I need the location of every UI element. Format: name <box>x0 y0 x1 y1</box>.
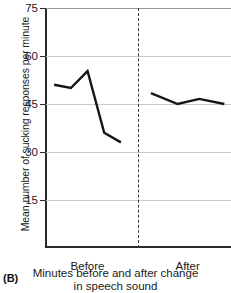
plot-area: 7560453015 BeforeAfter <box>45 8 231 248</box>
y-tick-label-45: 45 <box>25 98 38 110</box>
y-tick-label-30: 30 <box>25 146 38 158</box>
y-tick-label-15: 15 <box>25 194 38 206</box>
y-axis-title: Mean number of sucking responses per min… <box>19 4 31 244</box>
y-tick-label-60: 60 <box>25 50 38 62</box>
x-axis-title: Minutes before and after change in speec… <box>0 267 231 293</box>
data-series-group <box>45 8 231 248</box>
series-line-after <box>151 93 224 104</box>
panel-label: (B) <box>3 272 18 284</box>
series-line-before <box>54 71 121 142</box>
y-tick-label-75: 75 <box>25 2 38 14</box>
x-axis-title-line-1: Minutes before and after change <box>0 267 231 280</box>
x-axis-title-line-2: in speech sound <box>0 280 231 293</box>
